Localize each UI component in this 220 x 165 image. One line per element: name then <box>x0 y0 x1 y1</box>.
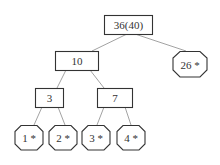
edges <box>34 34 186 125</box>
leaf-4-label: 4 * <box>124 132 138 144</box>
edge-10-3 <box>57 70 66 88</box>
node-10: 10 <box>56 52 99 71</box>
edge-root-26 <box>135 34 186 51</box>
leaf-1-label: 1 * <box>22 132 36 144</box>
edge-3-2 <box>58 107 65 125</box>
node-3-label: 3 <box>47 92 53 104</box>
node-3: 3 <box>36 89 64 108</box>
edge-10-7 <box>90 70 104 88</box>
node-7-label: 7 <box>112 92 118 104</box>
edge-7-4 <box>125 107 131 125</box>
leaf-3-label: 3 * <box>89 132 103 144</box>
node-leaf-1: 1 * <box>15 126 43 151</box>
node-leaf-2: 2 * <box>49 126 77 151</box>
edge-7-3 <box>97 107 104 125</box>
node-26: 26 * <box>173 52 207 78</box>
node-root: 36(40) <box>105 16 153 35</box>
edge-root-10 <box>92 34 127 51</box>
tree-diagram: 36(40) 10 26 * 3 7 1 * 2 * 3 * 4 * <box>0 0 220 165</box>
node-leaf-3: 3 * <box>82 126 110 151</box>
edge-3-1 <box>34 107 42 125</box>
node-leaf-4: 4 * <box>117 126 145 151</box>
node-26-label: 26 * <box>180 59 199 71</box>
node-root-label: 36(40) <box>114 19 144 32</box>
node-10-label: 10 <box>72 55 84 67</box>
leaf-2-label: 2 * <box>56 132 70 144</box>
node-7: 7 <box>98 89 133 108</box>
